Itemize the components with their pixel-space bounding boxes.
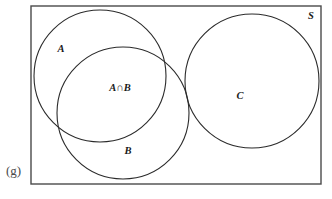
universal-set-label: S: [308, 10, 314, 21]
venn-diagram: S A A∩B B C: [0, 0, 332, 199]
set-label-c: C: [236, 90, 244, 101]
region-label-a-intersect-b: A∩B: [108, 82, 131, 93]
set-label-a: A: [56, 43, 64, 54]
set-circle-b: [57, 47, 189, 179]
figure-caption: (g): [6, 163, 21, 179]
figure-canvas: S A A∩B B C (g): [0, 0, 332, 199]
set-circle-a: [34, 10, 166, 142]
set-circle-c: [185, 14, 319, 148]
set-label-b: B: [123, 145, 131, 156]
